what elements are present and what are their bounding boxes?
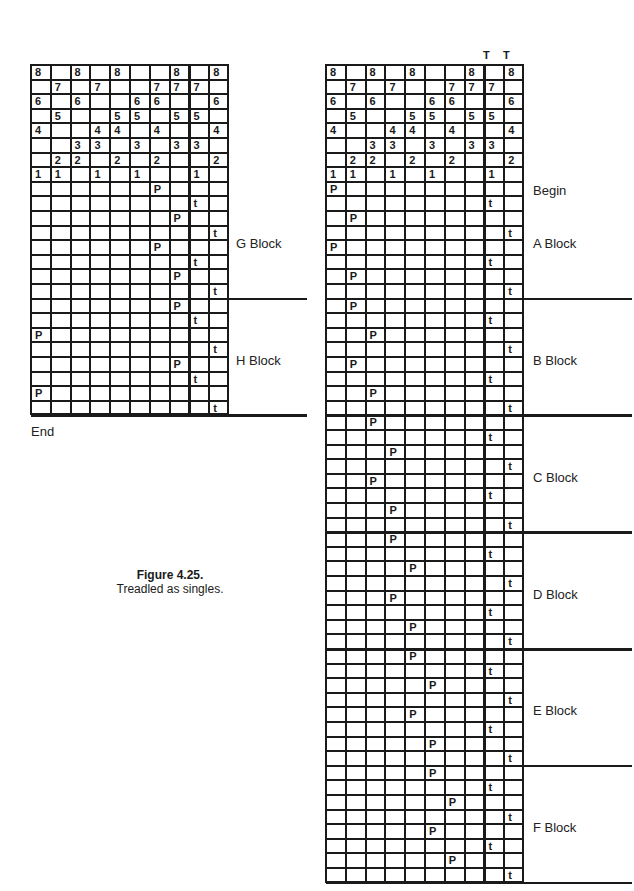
threading-cell — [189, 65, 209, 80]
treadling-cell — [445, 240, 465, 255]
treadling-cell — [425, 386, 445, 401]
treadling-cell: t — [189, 313, 209, 328]
block-divider — [326, 765, 632, 768]
threading-cell — [110, 94, 130, 109]
treadling-cell — [465, 634, 485, 649]
treadling-cell — [326, 780, 346, 795]
treadling-cell — [346, 430, 366, 445]
treadling-cell — [346, 313, 366, 328]
treadling-cell — [445, 722, 465, 737]
treadling-cell — [189, 226, 209, 241]
block-label: F Block — [533, 820, 576, 835]
treadling-cell — [405, 605, 425, 620]
treadling-cell — [170, 372, 190, 387]
treadling-cell — [484, 328, 504, 343]
treadling-cell — [71, 269, 91, 284]
treadling-cell: P — [385, 591, 405, 606]
threading-cell: 6 — [425, 94, 445, 109]
treadling-cell: t — [189, 372, 209, 387]
treadling-cell — [366, 445, 386, 460]
treadling-cell — [465, 313, 485, 328]
treadling-cell — [170, 313, 190, 328]
treadling-cell — [326, 707, 346, 722]
treadling-cell — [326, 313, 346, 328]
treadling-cell: P — [425, 824, 445, 839]
treadling-cell — [366, 634, 386, 649]
treadling-cell — [465, 620, 485, 635]
treadling-cell — [326, 328, 346, 343]
treadling-cell — [504, 839, 524, 854]
treadling-cell: t — [504, 226, 524, 241]
threading-cell — [90, 65, 110, 80]
treadling-cell — [425, 255, 445, 270]
treadling-cell — [346, 415, 366, 430]
treadling-cell — [346, 664, 366, 679]
treadling-cell — [405, 299, 425, 314]
treadling-cell — [405, 810, 425, 825]
treadling-cell: t — [504, 576, 524, 591]
treadling-cell — [326, 766, 346, 781]
threading-cell — [170, 94, 190, 109]
treadling-cell — [465, 196, 485, 211]
treadling-cell — [366, 372, 386, 387]
treadling-cell: P — [170, 269, 190, 284]
treadling-cell — [366, 722, 386, 737]
treadling-cell — [465, 488, 485, 503]
treadling-cell — [209, 182, 229, 197]
treadling-cell — [366, 576, 386, 591]
threading-cell — [150, 65, 170, 80]
treadling-cell: P — [445, 853, 465, 868]
treadling-cell — [465, 839, 485, 854]
treadling-cell — [445, 810, 465, 825]
treadling-cell — [484, 240, 504, 255]
treadling-cell — [31, 342, 51, 357]
treadling-cell — [31, 211, 51, 226]
threading-cell: 8 — [465, 65, 485, 80]
treadling-cell — [445, 605, 465, 620]
treadling-cell — [425, 693, 445, 708]
treadling-cell — [465, 868, 485, 883]
treadling-cell — [445, 824, 465, 839]
treadling-cell — [189, 299, 209, 314]
treadling-cell — [504, 547, 524, 562]
treadling-cell — [31, 269, 51, 284]
threading-cell: 2 — [150, 153, 170, 168]
treadling-cell — [366, 664, 386, 679]
treadling-cell — [326, 561, 346, 576]
treadling-cell — [130, 269, 150, 284]
treadling-cell — [110, 255, 130, 270]
threading-cell — [366, 167, 386, 182]
treadling-cell — [326, 722, 346, 737]
threading-cell: 2 — [110, 153, 130, 168]
threading-cell: 3 — [366, 138, 386, 153]
threading-cell: 4 — [150, 123, 170, 138]
treadling-cell — [326, 211, 346, 226]
treadling-cell — [366, 342, 386, 357]
treadling-cell — [405, 634, 425, 649]
treadling-cell — [110, 182, 130, 197]
threading-cell — [51, 94, 71, 109]
threading-cell: 4 — [110, 123, 130, 138]
treadling-cell — [366, 839, 386, 854]
treadling-cell — [405, 240, 425, 255]
block-divider — [326, 648, 632, 651]
treadling-cell — [346, 372, 366, 387]
treadling-cell — [346, 401, 366, 416]
threading-cell: 1 — [484, 167, 504, 182]
treadling-cell — [346, 605, 366, 620]
threading-cell — [189, 123, 209, 138]
treadling-cell — [150, 386, 170, 401]
threading-cell — [366, 80, 386, 95]
treadling-cell — [465, 284, 485, 299]
treadling-cell — [385, 328, 405, 343]
treadling-cell — [425, 780, 445, 795]
threading-cell — [71, 123, 91, 138]
treadling-cell — [484, 868, 504, 883]
treadling-cell: P — [346, 269, 366, 284]
treadling-cell — [31, 401, 51, 416]
threading-cell — [465, 167, 485, 182]
treadling-cell — [405, 664, 425, 679]
threading-cell — [170, 153, 190, 168]
threading-cell: 5 — [405, 109, 425, 124]
threading-cell — [31, 109, 51, 124]
